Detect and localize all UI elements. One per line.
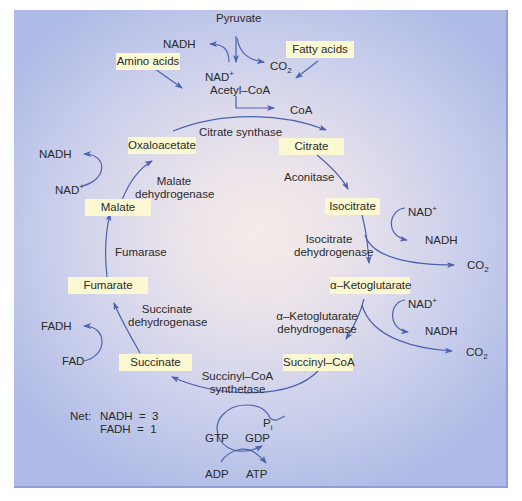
isocitrate-nadh-label: NADH	[425, 234, 458, 247]
pyruvate-co2-arrow	[237, 38, 264, 62]
akg-nadh-arrow	[393, 300, 408, 332]
malate-nadh-curl-arrow	[82, 154, 102, 186]
fad-label: FAD	[62, 355, 84, 368]
citrate-box: Citrate	[279, 138, 344, 155]
oxaloacetate-box: Oxaloacetate	[128, 137, 196, 154]
atp-label: ATP	[246, 468, 268, 481]
adp-label: ADP	[205, 468, 229, 481]
akg-co2-label: CO2	[466, 346, 488, 363]
net-fadh: FADH = 1	[100, 423, 157, 436]
malate-nad-label: NAD+	[55, 180, 84, 197]
coa-label: CoA	[290, 104, 312, 117]
malate-box: Malate	[85, 199, 151, 216]
net-label: Net:	[70, 410, 91, 423]
pyruvate-label: Pyruvate	[216, 12, 261, 25]
succinyl-coa-synthetase-label: Succinyl–CoAsynthetase	[200, 370, 275, 396]
net-nadh: NADH = 3	[100, 410, 158, 423]
gtp-label: GTP	[205, 432, 229, 445]
fadh-label: FADH	[41, 320, 72, 333]
fatty-acids-arrow	[296, 61, 318, 78]
isocitrate-nadh-arrow	[391, 208, 407, 240]
pyruvate-nad-label: NAD+	[205, 67, 234, 84]
pyruvate-co2-label: CO2	[270, 60, 292, 77]
akg-dh-label: α–Ketoglutaratedehydrogenase	[272, 310, 362, 336]
akg-nad-label: NAD+	[408, 294, 437, 311]
alpha-ketoglutarate-box: α–Ketoglutarate	[330, 277, 410, 294]
isocitrate-co2-label: CO2	[467, 259, 489, 276]
acetyl-coa-label: Acetyl–CoA	[210, 84, 270, 97]
fadh-curl-arrow	[84, 326, 102, 361]
pathway-arrows	[0, 0, 522, 501]
succinate-box: Succinate	[119, 354, 192, 371]
pi-label: Pi	[263, 417, 272, 434]
coa-release-arrow	[236, 96, 274, 108]
malate-nadh-label: NADH	[39, 148, 72, 161]
pyruvate-nadh-label: NADH	[163, 38, 196, 51]
fatty-acids-box: Fatty acids	[286, 41, 354, 58]
fumarase-label: Fumarase	[115, 246, 167, 259]
isocitrate-dh-label: Isocitratedehydrogenase	[294, 233, 364, 259]
isocitrate-nad-label: NAD+	[408, 202, 437, 219]
amino-acids-box: Amino acids	[116, 53, 180, 70]
aconitase-label: Aconitase	[284, 171, 335, 184]
succinyl-coa-box: Succinyl–CoA	[283, 354, 353, 371]
fumarase-arrow	[106, 214, 110, 277]
akg-nadh-label: NADH	[425, 325, 458, 338]
citrate-synthase-label: Citrate synthase	[199, 126, 282, 139]
succinate-dh-label: Succinatedehydrogenase	[128, 303, 206, 329]
fumarate-box: Fumarate	[68, 277, 148, 294]
nadh-branch-arrow	[210, 44, 229, 62]
isocitrate-box: Isocitrate	[325, 198, 380, 215]
malate-dh-label: Malatedehydrogenase	[135, 175, 213, 201]
